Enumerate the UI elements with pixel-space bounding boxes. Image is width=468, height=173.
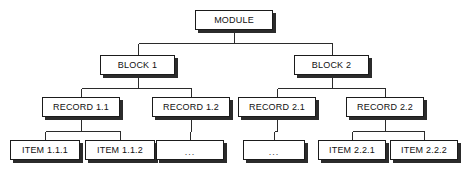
node-label: MODULE bbox=[214, 15, 254, 24]
node-ellipsis12[interactable]: ... bbox=[156, 140, 224, 160]
node-ellipsis21[interactable]: ... bbox=[243, 140, 305, 160]
node-label: RECORD 2.2 bbox=[357, 102, 413, 111]
hierarchy-diagram: MODULEBLOCK 1BLOCK 2RECORD 1.1RECORD 1.2… bbox=[0, 0, 468, 173]
node-label: ITEM 2.2.1 bbox=[329, 145, 375, 154]
node-module[interactable]: MODULE bbox=[195, 10, 273, 30]
node-label: ITEM 1.1.2 bbox=[97, 145, 143, 154]
node-label: RECORD 1.1 bbox=[53, 102, 109, 111]
node-item222[interactable]: ITEM 2.2.2 bbox=[390, 140, 458, 160]
node-item112[interactable]: ITEM 1.1.2 bbox=[85, 140, 155, 160]
node-label: ... bbox=[185, 148, 196, 157]
node-record12[interactable]: RECORD 1.2 bbox=[152, 97, 230, 117]
node-block1[interactable]: BLOCK 1 bbox=[100, 55, 175, 75]
node-label: BLOCK 2 bbox=[312, 60, 351, 69]
node-item221[interactable]: ITEM 2.2.1 bbox=[318, 140, 386, 160]
node-label: RECORD 1.2 bbox=[163, 102, 219, 111]
node-record21[interactable]: RECORD 2.1 bbox=[238, 97, 316, 117]
node-record11[interactable]: RECORD 1.1 bbox=[42, 97, 120, 117]
node-label: ... bbox=[269, 148, 280, 157]
node-label: BLOCK 1 bbox=[118, 60, 157, 69]
node-block2[interactable]: BLOCK 2 bbox=[294, 55, 369, 75]
node-label: RECORD 2.1 bbox=[249, 102, 305, 111]
node-item111[interactable]: ITEM 1.1.1 bbox=[10, 140, 80, 160]
node-record22[interactable]: RECORD 2.2 bbox=[346, 97, 424, 117]
node-label: ITEM 2.2.2 bbox=[401, 145, 447, 154]
node-label: ITEM 1.1.1 bbox=[22, 145, 68, 154]
